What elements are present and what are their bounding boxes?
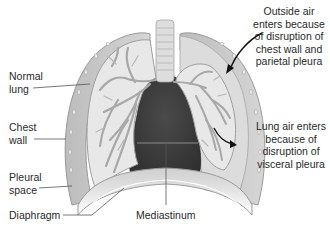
label-chest-wall: Chest wall xyxy=(9,121,36,146)
label-outside-air: Outside air enters because of disruption… xyxy=(248,5,330,68)
label-diaphragm: Diaphragm xyxy=(9,209,60,222)
label-pleural-space: Pleural space xyxy=(9,171,42,196)
label-normal-lung: Normal lung xyxy=(9,70,43,95)
label-lung-air: Lung air enters because of disruption of… xyxy=(252,120,330,170)
trachea xyxy=(156,20,174,82)
label-mediastinum: Mediastinum xyxy=(136,209,196,222)
